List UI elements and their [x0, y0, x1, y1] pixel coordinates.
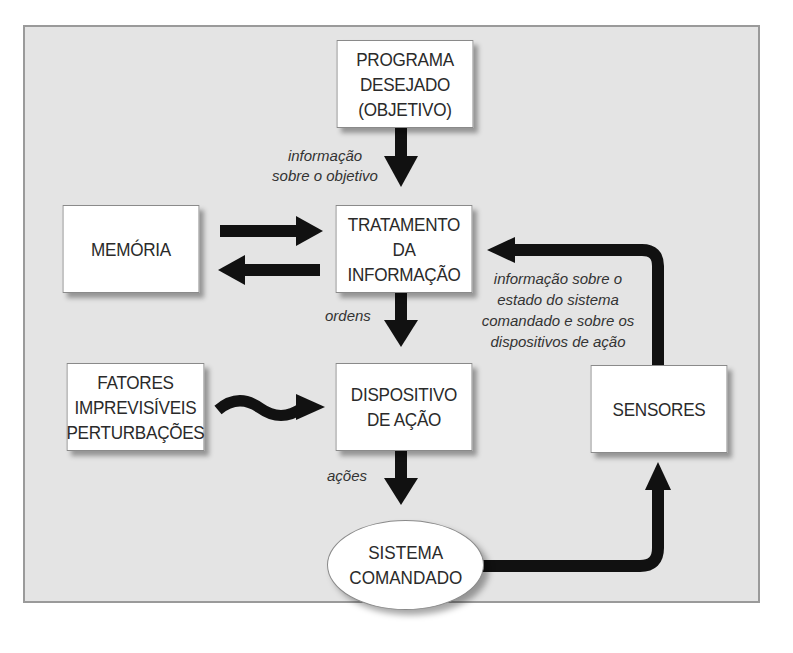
- edge-label-line: estado do sistema: [478, 289, 638, 310]
- edge-label-line: ordens: [325, 306, 371, 326]
- node-label-line: INFORMAÇÃO: [347, 262, 460, 287]
- node-label-line: (OBJETIVO): [358, 97, 451, 122]
- node-label-line: PROGRAMA: [356, 47, 454, 72]
- arrow-tratamento-to-dispositivo: [384, 292, 418, 347]
- node-label-line: SISTEMA: [368, 540, 443, 565]
- arrow-memoria-to-tratamento: [220, 216, 323, 246]
- node-sistema-comandado: SISTEMA COMANDADO: [327, 520, 484, 610]
- node-fatores-imprevisiveis: FATORES IMPREVISÍVEIS PERTURBAÇÕES: [67, 363, 205, 451]
- edge-label-line: comandado e sobre os: [478, 310, 638, 331]
- node-sensores: SENSORES: [591, 365, 728, 453]
- arrow-programa-to-tratamento: [384, 128, 418, 187]
- arrow-sistema-to-sensores: [480, 462, 671, 566]
- node-dispositivo-de-acao: DISPOSITIVO DE AÇÃO: [336, 363, 473, 451]
- node-label-line: DE AÇÃO: [367, 407, 441, 432]
- edge-label-line: sobre o objetivo: [270, 166, 380, 186]
- edge-label-informacao-objetivo: informação sobre o objetivo: [270, 146, 380, 186]
- arrow-fatores-to-dispositivo-wavy: [218, 394, 325, 420]
- edge-label-line: informação: [270, 146, 380, 166]
- node-label-line: DISPOSITIVO: [351, 382, 457, 407]
- arrow-tratamento-to-memoria: [218, 255, 320, 285]
- node-label-line: DA: [392, 237, 415, 262]
- node-label-line: MEMÓRIA: [91, 237, 171, 262]
- node-tratamento-da-informacao: TRATAMENTO DA INFORMAÇÃO: [336, 205, 473, 293]
- node-label-line: IMPREVISÍVEIS: [75, 395, 197, 420]
- edge-label-line: ações: [327, 466, 367, 486]
- arrow-dispositivo-to-sistema: [384, 450, 418, 505]
- edge-label-acoes: ações: [327, 466, 367, 486]
- node-programa-desejado: PROGRAMA DESEJADO (OBJETIVO): [337, 40, 474, 128]
- node-label-line: PERTURBAÇÕES: [66, 420, 204, 445]
- node-label-line: TRATAMENTO: [348, 212, 460, 237]
- edge-label-line: dispositivos de ação: [478, 331, 638, 352]
- node-label-line: DESEJADO: [360, 72, 450, 97]
- edge-label-ordens: ordens: [325, 306, 371, 326]
- edge-label-line: informação sobre o: [478, 268, 638, 289]
- edge-label-feedback: informação sobre o estado do sistema com…: [478, 268, 638, 352]
- node-label-line: COMANDADO: [349, 565, 462, 590]
- node-memoria: MEMÓRIA: [63, 205, 200, 293]
- node-label-line: FATORES: [97, 370, 173, 395]
- node-label-line: SENSORES: [613, 397, 706, 422]
